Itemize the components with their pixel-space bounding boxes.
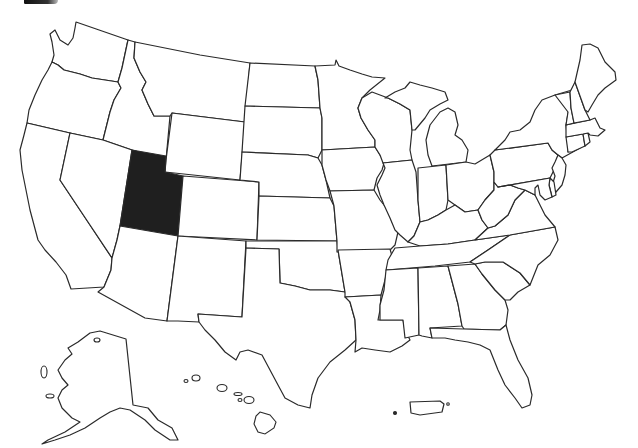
island-hawaii-lanai: [238, 399, 242, 402]
island-hawaii-niihau: [184, 380, 188, 383]
state-alaska[interactable]: [42, 331, 178, 444]
island-alaska-3: [46, 394, 54, 398]
island-alaska-2: [94, 338, 100, 342]
state-montana[interactable]: [134, 42, 250, 122]
us-state-map: United States map Utah: [0, 0, 638, 448]
state-kansas[interactable]: [257, 196, 337, 241]
state-new-mexico[interactable]: [167, 236, 246, 322]
state-wyoming[interactable]: [165, 113, 245, 180]
island-hawaii-oahu: [217, 385, 227, 392]
state-north-dakota[interactable]: [245, 63, 320, 108]
state-south-dakota[interactable]: [242, 106, 322, 158]
state-florida[interactable]: [430, 325, 532, 408]
island-hawaii-big: [254, 412, 276, 434]
island-hawaii-molokai: [234, 393, 242, 396]
island-hawaii-maui: [244, 397, 254, 404]
island-pr-vieques: [447, 403, 450, 406]
island-pr-mona: [394, 412, 397, 415]
corner-mark: [24, 0, 58, 4]
state-hawaii[interactable]: [184, 375, 276, 434]
territory-puerto-rico[interactable]: [410, 401, 444, 415]
state-iowa[interactable]: [322, 147, 385, 191]
map-svg: [0, 0, 638, 448]
island-hawaii-kauai: [192, 375, 200, 381]
island-alaska-1: [41, 366, 47, 378]
state-colorado[interactable]: [178, 176, 259, 240]
